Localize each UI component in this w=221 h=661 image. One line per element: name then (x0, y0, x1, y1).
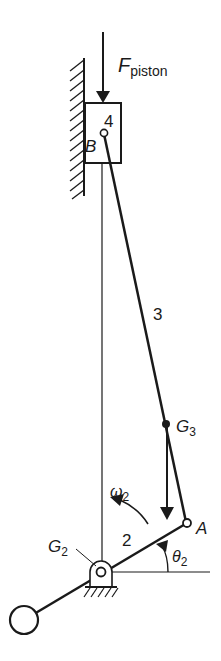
g2-label: G2 (48, 537, 68, 559)
counterweight (10, 606, 38, 634)
piston-force-arrow (96, 32, 110, 103)
g3-label: G3 (176, 417, 196, 439)
slider-crank-diagram: Fpiston 4 B 3 G3 (0, 0, 221, 661)
theta-angle-arc (156, 540, 168, 572)
pin-a (183, 519, 191, 527)
force-label: Fpiston (118, 54, 168, 79)
g2-leader-line (76, 549, 96, 566)
pin-b (100, 129, 107, 136)
pin-b-label: B (85, 137, 96, 156)
link4-label: 4 (104, 112, 113, 131)
g3-weight-arrow (160, 426, 174, 520)
connecting-rod (104, 134, 186, 522)
link3-label: 3 (153, 305, 162, 324)
theta-label: θ2 (172, 548, 188, 569)
pin-a-label: A (195, 519, 207, 538)
link2-label: 2 (122, 531, 131, 550)
cylinder-wall (70, 58, 84, 199)
